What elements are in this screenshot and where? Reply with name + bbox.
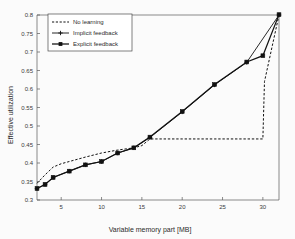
x-tick-label: 10 xyxy=(98,204,105,210)
marker-square xyxy=(277,13,281,17)
marker-square xyxy=(132,146,136,150)
x-tick-label: 25 xyxy=(219,204,226,210)
marker-square xyxy=(100,160,104,164)
legend-label: No learning xyxy=(73,19,104,25)
marker-square xyxy=(35,187,39,191)
y-tick-label: 0.4 xyxy=(25,160,34,166)
figure-container: 51015202530 0.30.350.40.450.50.550.60.65… xyxy=(0,0,295,239)
x-axis-title: Variable memory part [MB] xyxy=(109,226,192,234)
chart-legend: No learningImplicit feedbackExplicit fee… xyxy=(48,14,132,51)
y-tick-label: 0.45 xyxy=(21,142,33,148)
marker-square xyxy=(84,163,88,167)
marker-square xyxy=(67,169,71,173)
x-tick-label: 15 xyxy=(139,204,146,210)
legend-label: Implicit feedback xyxy=(73,30,119,36)
y-tick-label: 0.3 xyxy=(25,197,34,203)
marker-square xyxy=(51,176,55,180)
y-tick-label: 0.65 xyxy=(21,68,33,74)
x-tick-label: 5 xyxy=(60,204,64,210)
marker-square xyxy=(180,110,184,114)
x-axis-ticks: 51015202530 xyxy=(60,197,267,210)
y-tick-label: 0.35 xyxy=(21,179,33,185)
marker-square xyxy=(43,183,47,187)
marker-square xyxy=(213,83,217,87)
y-axis-title: Effective utilization xyxy=(7,86,14,144)
marker-square xyxy=(116,151,120,155)
y-tick-label: 0.6 xyxy=(25,86,34,92)
y-tick-label: 0.75 xyxy=(21,31,33,37)
y-tick-label: 0.55 xyxy=(21,105,33,111)
y-tick-label: 0.7 xyxy=(25,49,34,55)
marker-square xyxy=(261,54,265,58)
x-tick-label: 30 xyxy=(260,204,267,210)
marker-square xyxy=(148,135,152,139)
chart-plot: 51015202530 0.30.350.40.450.50.550.60.65… xyxy=(0,0,295,239)
y-tick-label: 0.5 xyxy=(25,123,34,129)
marker-square xyxy=(245,60,249,64)
legend-label: Explicit feedback xyxy=(73,41,119,47)
y-tick-label: 0.8 xyxy=(25,12,34,18)
x-tick-label: 20 xyxy=(179,204,186,210)
